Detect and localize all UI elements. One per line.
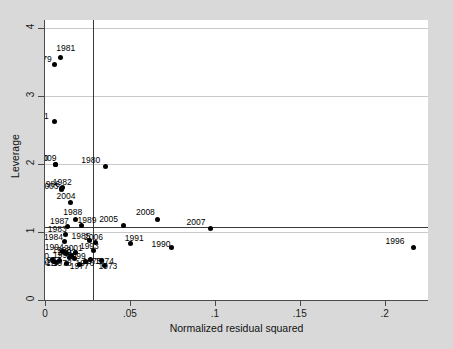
- point-label: 1984: [45, 233, 63, 242]
- point-label: 2011: [45, 112, 49, 121]
- scatter-point: [52, 62, 57, 67]
- scatter-point: [68, 200, 73, 205]
- x-tick-mark: [215, 300, 216, 306]
- scatter-point: [155, 217, 160, 222]
- x-axis-line: [44, 300, 428, 301]
- point-label: 2003: [45, 182, 59, 191]
- point-label: 2009: [45, 154, 56, 163]
- point-label: 1996: [386, 237, 405, 246]
- y-tick-label: 1: [25, 223, 36, 239]
- x-tick-mark: [300, 300, 301, 306]
- point-label: 1978: [53, 259, 72, 268]
- gridline-y-4: [45, 28, 428, 29]
- y-tick-mark: [38, 300, 44, 301]
- y-tick-label: 4: [25, 19, 36, 35]
- x-tick-mark: [130, 300, 131, 306]
- scatter-point: [411, 245, 416, 250]
- mean-leverage-line: [45, 227, 428, 228]
- point-label: 2005: [99, 215, 118, 224]
- x-tick-label: .05: [123, 308, 137, 319]
- y-axis-title: Leverage: [9, 111, 21, 201]
- scatter-point: [208, 226, 213, 231]
- x-axis-title: Normalized residual squared: [45, 322, 428, 334]
- scatter-point: [103, 164, 108, 169]
- y-tick-label: 3: [25, 87, 36, 103]
- scatter-point: [121, 223, 126, 228]
- y-tick-mark: [38, 28, 44, 29]
- x-tick-label: .1: [211, 308, 219, 319]
- point-label: 2007: [187, 218, 206, 227]
- y-tick-mark: [38, 96, 44, 97]
- y-tick-label: 0: [25, 291, 36, 307]
- gridline-y-3: [45, 96, 428, 97]
- point-label: 2004: [56, 192, 75, 201]
- point-label: 1989: [78, 216, 97, 225]
- point-label: 1981: [56, 44, 75, 53]
- point-label: 2008: [136, 208, 155, 217]
- x-tick-label: 0: [42, 308, 48, 319]
- scatter-point: [58, 55, 63, 60]
- point-label: 1979: [45, 55, 52, 64]
- scatter-point: [52, 119, 57, 124]
- point-label: 1990: [152, 240, 171, 249]
- y-axis-line: [44, 20, 45, 301]
- x-tick-mark: [45, 300, 46, 306]
- y-tick-mark: [38, 232, 44, 233]
- x-tick-mark: [385, 300, 386, 306]
- point-label: 1991: [125, 234, 144, 243]
- plot-area: 1981197920112010200919801982198620032004…: [45, 20, 428, 300]
- point-label: 1973: [98, 262, 117, 271]
- chart-figure: 1981197920112010200919801982198620032004…: [0, 0, 453, 349]
- point-label: 1980: [81, 156, 100, 165]
- y-tick-mark: [38, 164, 44, 165]
- x-tick-label: .2: [381, 308, 389, 319]
- y-tick-label: 2: [25, 155, 36, 171]
- x-tick-label: .15: [293, 308, 307, 319]
